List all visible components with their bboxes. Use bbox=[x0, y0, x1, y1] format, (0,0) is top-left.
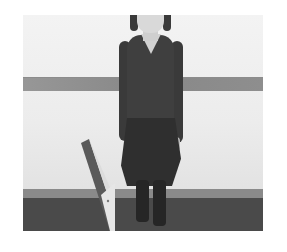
angled-board bbox=[81, 139, 115, 231]
person-skirt bbox=[121, 118, 181, 186]
photograph bbox=[23, 15, 263, 231]
person-right-leg bbox=[153, 180, 166, 226]
person-hair-right bbox=[163, 15, 171, 31]
person-left-leg bbox=[136, 180, 149, 222]
